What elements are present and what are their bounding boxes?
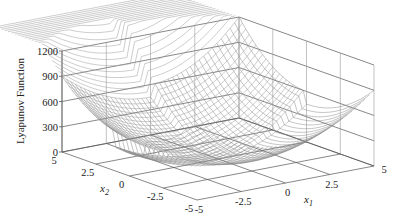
tick-label: 2.5 — [81, 167, 94, 178]
tick-label: -5 — [195, 204, 204, 215]
tick-label: 600 — [42, 97, 58, 108]
tick-label: 5 — [381, 164, 386, 175]
tick-label: -2.5 — [235, 196, 252, 207]
x2-axis-label: x2 — [99, 182, 109, 197]
axes-grid — [59, 17, 374, 200]
tick-label: 2.5 — [325, 179, 338, 190]
tick-label: 0 — [119, 179, 124, 190]
z-axis-label: Lyapunov Function — [14, 58, 26, 144]
tick-label: 900 — [42, 71, 58, 82]
x1-axis-label: x1 — [303, 193, 313, 208]
lyapunov-surface-plot: 0300600900120052.50-2.5-5-5-2.502.55 Lya… — [0, 0, 404, 220]
tick-label: -2.5 — [147, 191, 164, 202]
surface-mesh — [0, 0, 374, 166]
tick-label: -5 — [185, 203, 194, 214]
tick-label: 300 — [42, 122, 58, 133]
tick-label: 1200 — [37, 46, 58, 57]
tick-label: 0 — [285, 187, 290, 198]
tick-label: 5 — [51, 155, 56, 166]
